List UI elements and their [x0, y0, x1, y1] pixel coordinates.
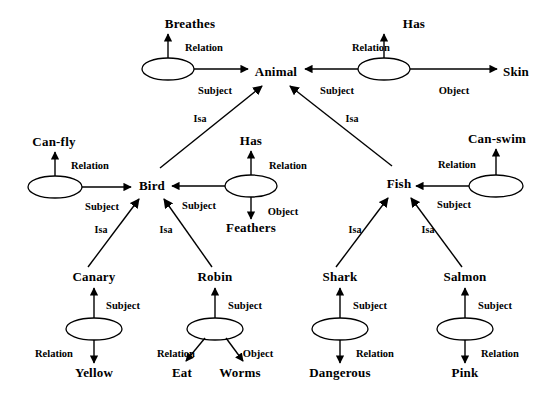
relation-node-salmon-pink [437, 318, 493, 340]
concept-eat: Eat [172, 365, 192, 381]
concept-canary: Canary [72, 269, 115, 285]
concept-bird: Bird [139, 178, 165, 194]
concept-can-fly: Can-fly [32, 134, 75, 150]
edge-label-relation-canswim: Relation [438, 159, 476, 170]
edge-label-isa-salmon-fish: Isa [422, 224, 435, 235]
edge-label-relation-canfly: Relation [71, 160, 109, 171]
concept-robin: Robin [198, 269, 233, 285]
edge-label-relation-has-top: Relation [352, 42, 390, 53]
concept-has-top: Has [403, 16, 425, 32]
edge-robin-object-worms [226, 338, 243, 361]
edge-label-object-feathers: Object [268, 206, 298, 217]
edge-label-relation-has-mid: Relation [269, 160, 307, 171]
edge-label-isa-shark-fish: Isa [349, 224, 362, 235]
edge-label-isa-fish-animal: Isa [346, 113, 359, 124]
edge-label-subject-animal-left: Subject [198, 85, 232, 96]
concept-salmon: Salmon [443, 269, 486, 285]
edge-label-subject-animal-right: Subject [320, 85, 354, 96]
concept-dangerous: Dangerous [309, 365, 371, 381]
concept-breathes: Breathes [165, 16, 215, 32]
edge-isa-bird-animal [160, 86, 262, 168]
edge-label-relation-pink: Relation [481, 348, 519, 359]
edge-isa-fish-animal [290, 86, 392, 166]
concept-skin: Skin [503, 64, 529, 80]
edge-label-relation-yellow: Relation [35, 348, 73, 359]
concept-animal: Animal [255, 64, 297, 80]
concept-yellow: Yellow [75, 365, 113, 381]
edge-label-subject-bird-right: Subject [182, 200, 216, 211]
concept-can-swim: Can-swim [468, 131, 526, 147]
edge-label-subject-canary: Subject [106, 300, 140, 311]
relation-node-breathes [142, 58, 194, 80]
relation-node-shark-dangerous [312, 318, 368, 340]
relation-node-can-swim [469, 175, 523, 197]
edge-label-subject-robin: Subject [228, 300, 262, 311]
edge-label-relation-breathes: Relation [185, 42, 223, 53]
concept-worms: Worms [219, 365, 260, 381]
edge-isa-shark-fish [336, 198, 388, 267]
edge-label-subject-fish: Subject [437, 199, 471, 210]
concept-has-mid: Has [240, 133, 262, 149]
edge-label-relation-eat: Relation [157, 348, 195, 359]
concept-fish: Fish [387, 176, 412, 192]
edge-label-object-worms: Object [243, 348, 273, 359]
edge-label-isa-bird-animal: Isa [194, 113, 207, 124]
edge-label-subject-shark: Subject [353, 300, 387, 311]
concept-pink: Pink [452, 365, 479, 381]
relation-node-robin-eat-worms [187, 318, 243, 340]
edge-label-isa-canary-bird: Isa [95, 224, 108, 235]
concept-feathers: Feathers [226, 220, 276, 236]
edge-label-object-skin: Object [439, 85, 469, 96]
relation-node-feathers [225, 175, 277, 197]
relation-node-has-skin [358, 58, 410, 80]
edge-label-subject-salmon: Subject [478, 300, 512, 311]
edge-label-subject-bird-left: Subject [85, 201, 119, 212]
edge-label-isa-robin-bird: Isa [160, 224, 173, 235]
concept-shark: Shark [323, 269, 358, 285]
edge-label-relation-dangerous: Relation [356, 348, 394, 359]
relation-node-canary-yellow [66, 318, 122, 340]
semantic-network-diagram: Breathes Has Animal Skin Can-fly Has Can… [0, 0, 550, 403]
relation-node-can-fly [28, 176, 82, 198]
